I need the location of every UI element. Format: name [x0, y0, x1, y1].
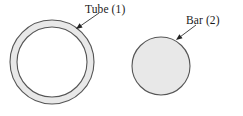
tube-label: Tube (1): [85, 4, 125, 16]
tube-arrowhead-icon: [76, 23, 83, 29]
tube-shape: [10, 20, 94, 104]
bar-arrowhead-icon: [176, 34, 183, 40]
tube-inner-circle: [17, 27, 87, 97]
bar-leader-arrow: [176, 25, 196, 40]
bar-label: Bar (2): [186, 15, 220, 27]
bar-leader-line: [181, 25, 196, 36]
bar-shape: [132, 37, 190, 95]
bar-circle: [132, 37, 190, 95]
figure-canvas: Tube (1) Bar (2): [0, 0, 243, 116]
